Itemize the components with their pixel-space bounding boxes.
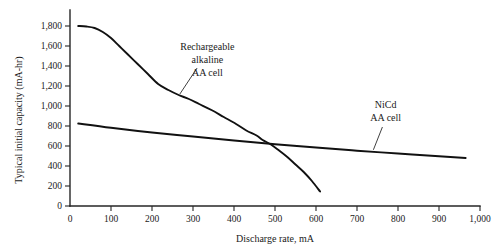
x-tick-label-0: 0 xyxy=(68,214,73,224)
chart-figure: 02004006008001,0001,2001,4001,6001,800 0… xyxy=(0,0,497,247)
y-tick-label-1400: 1,400 xyxy=(41,61,63,71)
y-tick-label-600: 600 xyxy=(48,141,63,151)
nicd-label-line-1: AA cell xyxy=(370,112,401,123)
alkaline-label-line-1: alkaline xyxy=(192,54,224,65)
nicd-label-line-0: NiCd xyxy=(375,99,397,110)
x-tick-label-1000: 1,000 xyxy=(469,214,491,224)
x-tick-label-600: 600 xyxy=(309,214,324,224)
y-tick-label-1800: 1,800 xyxy=(41,21,63,31)
chart-background xyxy=(0,0,497,247)
discharge-capacity-line-chart: 02004006008001,0001,2001,4001,6001,800 0… xyxy=(0,0,497,247)
y-tick-label-800: 800 xyxy=(48,121,63,131)
y-tick-label-200: 200 xyxy=(48,181,63,191)
alkaline-label-line-0: Rechargeable xyxy=(180,41,235,52)
x-tick-label-900: 900 xyxy=(432,214,447,224)
x-axis-title: Discharge rate, mA xyxy=(236,233,315,244)
y-tick-label-1600: 1,600 xyxy=(41,41,63,51)
alkaline-label-line-2: AA cell xyxy=(192,67,223,78)
x-tick-label-300: 300 xyxy=(186,214,201,224)
y-tick-label-400: 400 xyxy=(48,161,63,171)
x-tick-label-700: 700 xyxy=(350,214,365,224)
x-tick-label-100: 100 xyxy=(104,214,119,224)
x-tick-label-800: 800 xyxy=(391,214,406,224)
x-tick-label-200: 200 xyxy=(145,214,160,224)
y-tick-label-1000: 1,000 xyxy=(41,101,63,111)
y-axis-title: Typical initial capacity (mA-hr) xyxy=(13,56,25,183)
y-tick-label-1200: 1,200 xyxy=(41,81,63,91)
y-tick-label-0: 0 xyxy=(57,201,62,211)
x-tick-label-400: 400 xyxy=(227,214,242,224)
x-tick-label-500: 500 xyxy=(268,214,283,224)
